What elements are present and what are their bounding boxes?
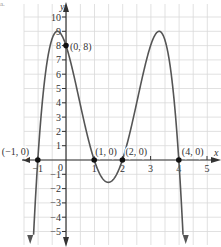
svg-text:7: 7 bbox=[56, 54, 61, 65]
svg-text:10: 10 bbox=[51, 12, 61, 23]
tick-labels: yx−5−4−3−2−112345678910−1012345 bbox=[32, 1, 219, 237]
svg-text:8: 8 bbox=[56, 40, 61, 51]
svg-text:4: 4 bbox=[56, 97, 61, 108]
svg-text:y: y bbox=[59, 1, 65, 12]
svg-text:0: 0 bbox=[58, 162, 63, 173]
svg-text:3: 3 bbox=[148, 163, 153, 174]
svg-text:x: x bbox=[213, 147, 219, 158]
svg-text:−4: −4 bbox=[50, 212, 61, 223]
svg-text:5: 5 bbox=[205, 163, 210, 174]
svg-text:2: 2 bbox=[56, 126, 61, 137]
svg-text:(4, 0): (4, 0) bbox=[182, 146, 204, 158]
svg-text:−5: −5 bbox=[50, 226, 61, 237]
svg-text:5: 5 bbox=[56, 83, 61, 94]
svg-text:(1, 0): (1, 0) bbox=[95, 146, 117, 158]
svg-text:−2: −2 bbox=[50, 183, 61, 194]
grid bbox=[24, 4, 221, 245]
labeled-points: (−1, 0)(0, 8)(1, 0)(2, 0)(4, 0) bbox=[2, 41, 204, 163]
svg-text:−3: −3 bbox=[50, 197, 61, 208]
svg-text:3: 3 bbox=[56, 112, 61, 123]
svg-text:1: 1 bbox=[56, 140, 61, 151]
svg-text:(2, 0): (2, 0) bbox=[125, 146, 147, 158]
svg-text:(0, 8): (0, 8) bbox=[70, 41, 92, 53]
polynomial-graph: yx−5−4−3−2−112345678910−1012345 (−1, 0)(… bbox=[0, 0, 221, 247]
svg-text:(−1, 0): (−1, 0) bbox=[2, 146, 29, 158]
svg-text:6: 6 bbox=[56, 69, 61, 80]
